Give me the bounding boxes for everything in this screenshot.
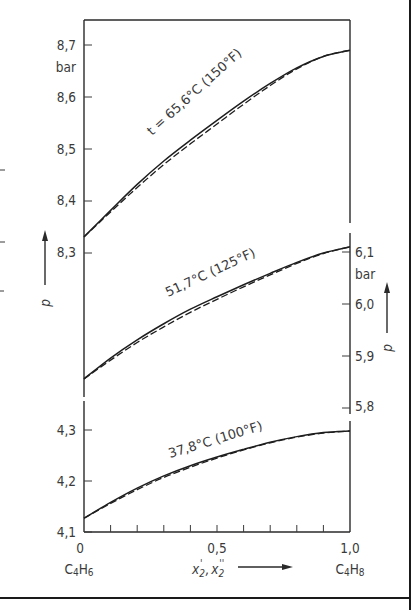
- arrow-head-icon: [384, 282, 390, 293]
- y-tick-label: 4,1: [57, 524, 76, 540]
- y-unit-label: bar: [56, 59, 76, 75]
- x-axis-symbol: x2',x2'': [191, 558, 224, 579]
- y-axis-symbol: p: [37, 299, 53, 308]
- x-tick-label: 0: [76, 540, 84, 556]
- y-tick-label-right: 5,8: [355, 398, 374, 414]
- y-tick-label: 4,2: [57, 473, 76, 489]
- curve-label-bottom: 37,8°C (100°F): [166, 418, 264, 461]
- y-tick-label: 8,7: [57, 37, 76, 53]
- curve-label-middle: 51,7°C (125°F): [163, 245, 258, 300]
- x-tick-label: 1,0: [340, 540, 359, 556]
- y-tick-label: 4,3: [57, 422, 76, 438]
- curve-label-top: t = 65,6°C (150°F): [144, 46, 245, 139]
- y-tick-label-right: 5,9: [355, 348, 374, 364]
- y-axis-label-right: p: [379, 282, 395, 353]
- x-end-label-right: C4H8: [335, 561, 364, 578]
- y-axis-label-left: p: [37, 230, 53, 308]
- y-axis-symbol: p: [379, 344, 395, 353]
- y-unit-label-right: bar: [355, 266, 375, 282]
- vapor-pressure-chart: 8,7 bar 8,6 8,5 8,4 8,3 p 6,1 bar 6,0 5,…: [0, 0, 415, 610]
- arrow-head-icon: [282, 564, 293, 570]
- x-end-label-left: C4H6: [64, 561, 93, 578]
- x-axis-label: x2',x2'': [191, 558, 293, 579]
- arrow-head-icon: [42, 230, 48, 241]
- y-tick-label-right: 6,1: [355, 244, 374, 260]
- y-tick-label: 8,3: [57, 244, 76, 260]
- y-tick-label-right: 6,0: [355, 296, 374, 312]
- y-tick-label: 8,4: [57, 192, 77, 208]
- y-tick-label: 8,5: [57, 141, 76, 157]
- curves: [84, 50, 350, 518]
- x-tick-label: 0,5: [207, 540, 226, 556]
- y-tick-label: 8,6: [57, 89, 76, 105]
- axis-ticks: [84, 45, 350, 532]
